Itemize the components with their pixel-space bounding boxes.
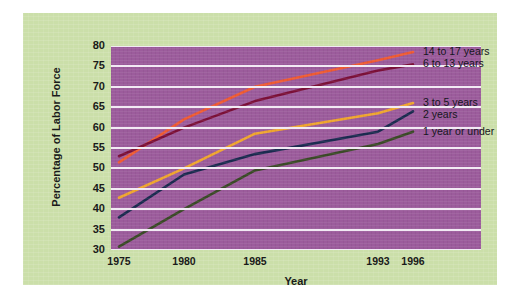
y-axis-title: Percentage of Labor Force [50,42,62,232]
gridline [111,249,481,250]
y-axis-tick-label: 65 [81,101,105,112]
y-axis-tick-label: 45 [81,183,105,194]
x-axis-tick-labels: 19751980198519931996 [111,255,481,269]
x-axis-tick-label: 1996 [401,255,424,267]
y-axis-tick-label: 55 [81,142,105,153]
gridline [111,167,481,169]
gridline [111,188,481,190]
gridline [111,86,481,88]
series-label-6-to-13-years: 6 to 13 years [423,58,484,69]
x-axis-tick-label: 1993 [366,255,389,267]
y-axis-tick-label: 70 [81,81,105,92]
gridline [111,208,481,210]
chart-screenshot: Percentage of Labor Force 30354045505560… [0,0,524,298]
y-axis-tick-label: 40 [81,203,105,214]
x-axis-tick-label: 1975 [107,255,130,267]
y-axis-tick-label: 30 [81,244,105,255]
series-label-14-to-17-years: 14 to 17 years [423,46,490,57]
y-axis-tick-label: 35 [81,224,105,235]
y-axis-tick-label: 60 [81,122,105,133]
series-label-1-year-or-under: 1 year or under [423,126,494,137]
y-axis-tick-label: 75 [81,60,105,71]
x-axis-title: Year [111,275,481,287]
y-axis-tick-labels: 3035404550556065707580 [79,46,105,250]
x-axis-tick-label: 1985 [243,255,266,267]
series-label-2-years: 2 years [423,109,457,120]
plot-area [111,46,481,250]
chart-panel: Percentage of Labor Force 30354045505560… [23,13,497,285]
gridline [111,229,481,231]
series-label-3-to-5-years: 3 to 5 years [423,97,478,108]
gridline [111,147,481,149]
y-axis-tick-label: 80 [81,40,105,51]
y-axis-tick-label: 50 [81,162,105,173]
x-axis-tick-label: 1980 [172,255,195,267]
